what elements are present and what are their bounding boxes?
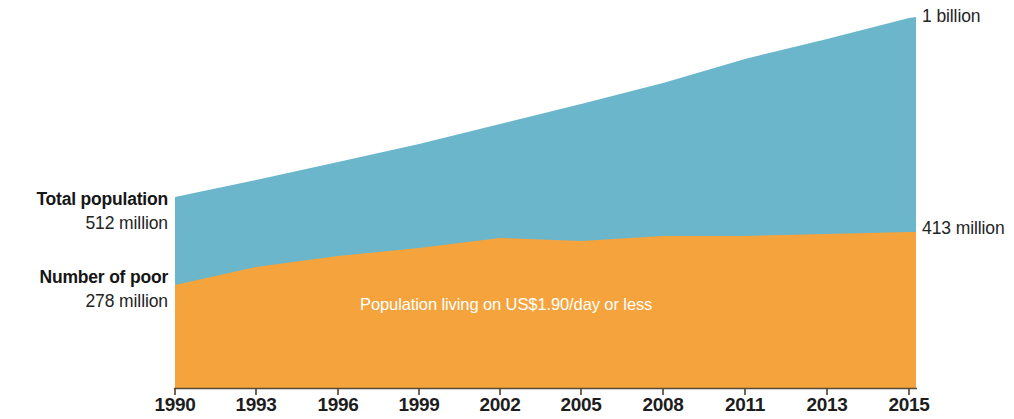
x-tick-label-1996: 1996 <box>317 394 358 416</box>
total-population-callout: Total population 512 million <box>0 188 168 235</box>
number-of-poor-callout: Number of poor 278 million <box>0 266 168 313</box>
x-axis-labels: 1990199319961999200220052008201120132015 <box>0 394 1014 419</box>
x-tick-label-2002: 2002 <box>479 394 520 416</box>
stacked-area-chart: Total population 512 million Number of p… <box>0 0 1014 419</box>
x-tick-label-1990: 1990 <box>154 394 195 416</box>
x-tick-label-2011: 2011 <box>725 394 765 416</box>
poor-band-inline-label: Population living on US$1.90/day or less <box>360 295 652 314</box>
number-of-poor-end-label: 413 million <box>922 218 1005 239</box>
x-tick-label-2013: 2013 <box>806 394 847 416</box>
x-tick-label-2005: 2005 <box>560 394 601 416</box>
number-of-poor-callout-value: 278 million <box>0 289 168 313</box>
x-tick-label-1999: 1999 <box>398 394 439 416</box>
number-of-poor-callout-title: Number of poor <box>0 266 168 289</box>
total-population-callout-title: Total population <box>0 188 168 211</box>
total-population-end-label: 1 billion <box>922 6 980 27</box>
x-tick-label-1993: 1993 <box>235 394 276 416</box>
x-tick-label-2015: 2015 <box>888 394 929 416</box>
x-tick-label-2008: 2008 <box>642 394 683 416</box>
total-population-callout-value: 512 million <box>0 211 168 235</box>
